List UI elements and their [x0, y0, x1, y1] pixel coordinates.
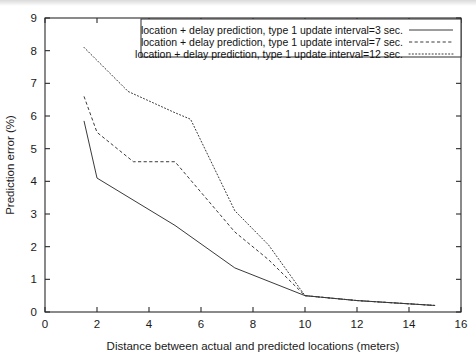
- plot-frame: [45, 18, 461, 312]
- series-layer: [84, 47, 435, 305]
- labels-layer: Distance between actual and predicted lo…: [4, 115, 400, 352]
- y-tick-label: 2: [31, 241, 37, 253]
- x-tick-label: 2: [94, 318, 100, 330]
- y-tick-label: 3: [31, 208, 37, 220]
- x-axis-title: Distance between actual and predicted lo…: [107, 340, 400, 352]
- legend-label-0: location + delay prediction, type 1 upda…: [141, 24, 403, 36]
- legend-label-2: location + delay prediction, type 1 upda…: [135, 48, 403, 60]
- x-tick-label: 0: [42, 318, 48, 330]
- x-tick-label: 16: [455, 318, 468, 330]
- y-tick-label: 1: [31, 273, 37, 285]
- legend-layer: location + delay prediction, type 1 upda…: [135, 19, 461, 60]
- chart-figure: 02468101214160123456789 location + delay…: [0, 0, 476, 357]
- x-tick-label: 10: [299, 318, 312, 330]
- x-tick-label: 6: [198, 318, 204, 330]
- x-tick-label: 14: [403, 318, 416, 330]
- x-tick-label: 12: [351, 318, 364, 330]
- x-tick-label: 4: [146, 318, 153, 330]
- y-tick-label: 4: [31, 175, 38, 187]
- y-tick-label: 7: [31, 77, 37, 89]
- series-line-2: [84, 47, 435, 305]
- x-tick-label: 8: [250, 318, 256, 330]
- line-chart-canvas: 02468101214160123456789 location + delay…: [0, 0, 476, 357]
- series-line-1: [84, 96, 435, 305]
- y-tick-label: 5: [31, 143, 37, 155]
- y-tick-label: 9: [31, 12, 37, 24]
- y-tick-label: 0: [31, 306, 37, 318]
- series-line-0: [84, 121, 435, 306]
- y-tick-label: 8: [31, 45, 37, 57]
- y-tick-label: 6: [31, 110, 37, 122]
- y-axis-title: Prediction error (%): [4, 115, 16, 215]
- legend-label-1: location + delay prediction, type 1 upda…: [141, 36, 403, 48]
